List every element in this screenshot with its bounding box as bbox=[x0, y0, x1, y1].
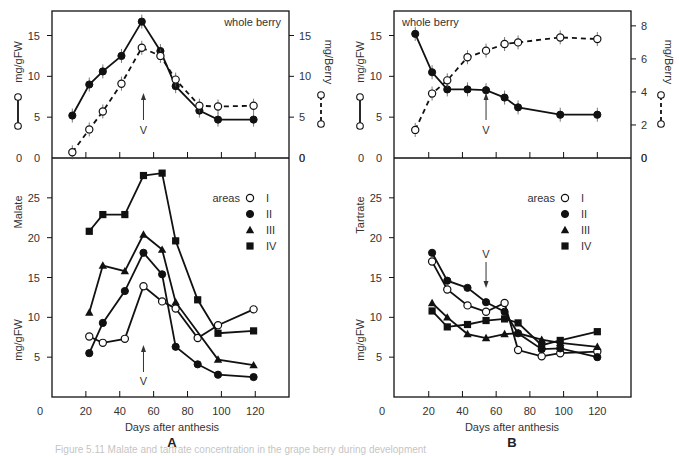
y-tick-label-bottom: 20 bbox=[28, 232, 40, 244]
y-axis-title-bottom: Malate bbox=[12, 195, 24, 228]
x-tick-label: 40 bbox=[114, 405, 126, 417]
y-tick-label-bottom: 10 bbox=[28, 311, 40, 323]
x-tick-label: 60 bbox=[490, 405, 502, 417]
data-point bbox=[514, 39, 521, 46]
data-point bbox=[172, 76, 179, 83]
data-point-area-ii bbox=[464, 284, 471, 291]
veraison-label: V bbox=[140, 375, 148, 387]
data-point bbox=[594, 111, 601, 118]
y-tick-label-bottom: 20 bbox=[370, 232, 382, 244]
data-point bbox=[118, 52, 125, 59]
y-tick-label-left: 5 bbox=[34, 111, 40, 123]
data-point-area-i bbox=[86, 333, 93, 340]
x-axis-title: Days after anthesis bbox=[125, 421, 220, 433]
data-point bbox=[138, 18, 145, 25]
panel-a: 020406080100120Days after anthesisA05101… bbox=[12, 11, 335, 450]
data-point bbox=[428, 90, 435, 97]
x-tick-label: 0 bbox=[37, 405, 43, 417]
y-tick-label-left: 15 bbox=[370, 30, 382, 42]
data-point bbox=[482, 87, 489, 94]
data-point-area-ii bbox=[594, 354, 601, 361]
data-point bbox=[412, 126, 419, 133]
legend-open-circle bbox=[15, 123, 22, 130]
legend-label-i: I bbox=[266, 192, 269, 204]
y-axis-title-bottom: Tartrate bbox=[354, 196, 366, 233]
data-point-area-i bbox=[159, 298, 166, 305]
y-tick-label-bottom: 5 bbox=[34, 351, 40, 363]
series-line-area-iii bbox=[89, 234, 253, 365]
data-point-area-iv bbox=[594, 328, 601, 335]
y-tick-label-right: 8 bbox=[641, 20, 647, 32]
y-tick-label-bottom: 25 bbox=[370, 192, 382, 204]
y-tick-label-right: 5 bbox=[299, 111, 305, 123]
veraison-arrowhead bbox=[141, 93, 146, 100]
legend-label-iv: IV bbox=[581, 240, 592, 252]
data-point-area-i bbox=[250, 306, 257, 313]
data-point-area-ii bbox=[140, 249, 147, 256]
data-point-area-iv bbox=[172, 237, 179, 244]
legend-open-circle bbox=[318, 121, 325, 128]
y-tick-label-right: 4 bbox=[641, 86, 647, 98]
data-point-area-iv bbox=[428, 307, 435, 314]
data-point-area-i bbox=[464, 302, 471, 309]
data-point-area-ii bbox=[501, 308, 508, 315]
data-point bbox=[594, 35, 601, 42]
data-point-area-iv bbox=[557, 337, 564, 344]
data-point bbox=[482, 47, 489, 54]
data-point-area-iv bbox=[250, 327, 257, 334]
data-point-area-iv bbox=[444, 323, 451, 330]
data-point-area-i bbox=[99, 339, 106, 346]
y-tick-label-left: 5 bbox=[376, 111, 382, 123]
data-point bbox=[557, 111, 564, 118]
y-axis-title-left-group: mg/gFW bbox=[12, 41, 24, 130]
veraison-arrowhead bbox=[484, 281, 489, 288]
y-tick-label-bottom: 15 bbox=[370, 272, 382, 284]
veraison-arrowhead bbox=[484, 93, 489, 100]
y-tick-label-bottom: 10 bbox=[370, 311, 382, 323]
y-tick-label-left: 10 bbox=[370, 70, 382, 82]
veraison-arrowhead bbox=[141, 345, 146, 352]
data-point-area-iii bbox=[171, 298, 179, 305]
data-point-area-i bbox=[514, 346, 521, 353]
legend-label-i: I bbox=[581, 192, 584, 204]
x-tick-label: 100 bbox=[212, 405, 230, 417]
x-tick-label: 60 bbox=[148, 405, 160, 417]
legend-open-circle bbox=[15, 94, 22, 101]
data-point-area-ii bbox=[86, 350, 93, 357]
y-tick-label-left: 15 bbox=[28, 30, 40, 42]
y-tick-label-left: 0 bbox=[34, 152, 40, 164]
y-axis-unit-bottom: mg/gFW bbox=[354, 319, 366, 361]
data-point bbox=[138, 44, 145, 51]
x-tick-label: 120 bbox=[246, 405, 264, 417]
data-point-area-ii bbox=[250, 373, 257, 380]
legend-open-circle bbox=[318, 92, 325, 99]
data-point bbox=[118, 80, 125, 87]
data-point bbox=[444, 77, 451, 84]
data-point-area-iv bbox=[514, 319, 521, 326]
series-line-area-i bbox=[432, 262, 597, 357]
data-point-area-iv bbox=[121, 211, 128, 218]
legend-title: areas bbox=[212, 192, 240, 204]
data-point bbox=[214, 116, 221, 123]
y-axis-title-right-group: mg/Berry bbox=[318, 40, 335, 128]
data-point bbox=[157, 52, 164, 59]
veraison-label: V bbox=[482, 248, 490, 260]
data-point-area-iii bbox=[428, 299, 436, 306]
y-tick-label-right-zero: 0 bbox=[641, 152, 647, 164]
data-point-area-i bbox=[444, 286, 451, 293]
data-point bbox=[69, 112, 76, 119]
data-point bbox=[501, 94, 508, 101]
x-tick-label: 40 bbox=[456, 405, 468, 417]
y-axis-title-right: mg/Berry bbox=[663, 40, 675, 85]
data-point-area-iv bbox=[140, 172, 147, 179]
y-tick-label-zero: 0 bbox=[16, 152, 22, 164]
x-tick-label: 20 bbox=[423, 405, 435, 417]
data-point-area-iv bbox=[86, 228, 93, 235]
series-line-area-ii bbox=[432, 253, 597, 357]
subplot-title: whole berry bbox=[401, 16, 459, 28]
legend-marker-open-circle bbox=[561, 194, 568, 201]
series-line-area-i bbox=[89, 286, 253, 343]
data-point-area-iii bbox=[99, 261, 107, 268]
legend-marker-open-circle bbox=[246, 194, 253, 201]
data-point-area-i bbox=[501, 299, 508, 306]
